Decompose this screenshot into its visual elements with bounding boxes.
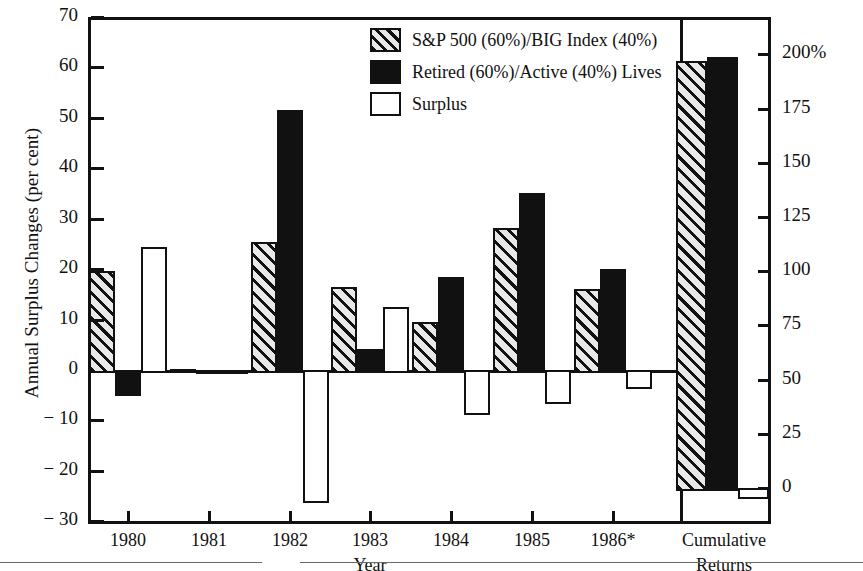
x-tick <box>289 511 292 524</box>
black-swatch-icon <box>370 60 401 84</box>
bar-sp500-big-index <box>574 289 600 373</box>
bar-retired-active-lives <box>438 277 464 373</box>
y-tick-label-right: 175 <box>782 96 863 118</box>
footer-rule-mid <box>300 562 730 563</box>
y-tick-left <box>91 117 104 120</box>
bar-surplus <box>464 370 490 415</box>
y-tick-label-right: 100 <box>782 258 863 280</box>
y-tick-left <box>91 16 104 19</box>
y-tick-label-right: 50 <box>782 367 863 389</box>
y-tick-label-left: 40 <box>8 155 78 177</box>
y-tick-right <box>758 53 771 56</box>
bar-sp500-big-index <box>412 322 438 373</box>
y-tick-label-left: 70 <box>8 4 78 26</box>
x-tick <box>531 511 534 524</box>
y-tick-left <box>91 66 104 69</box>
y-tick-label-right: 75 <box>782 312 863 334</box>
y-tick-label-right: 0 <box>782 475 863 497</box>
y-tick-label-left: 60 <box>8 54 78 76</box>
x-axis-title: Year <box>290 555 450 571</box>
y-tick-left <box>91 520 104 523</box>
y-tick-left <box>91 218 104 221</box>
x-group-label-cumulative-line2: Returns <box>644 555 804 571</box>
footer-rule-right <box>745 562 863 563</box>
bar-surplus <box>626 370 652 389</box>
y-tick-right <box>758 324 771 327</box>
bar-surplus <box>222 370 248 374</box>
axis-frame-bottom <box>88 521 768 524</box>
y-tick-label-right: 125 <box>782 204 863 226</box>
x-tick <box>612 511 615 524</box>
y-tick-label-right: 200% <box>782 41 863 63</box>
x-tick <box>450 511 453 524</box>
y-tick-left <box>91 470 104 473</box>
legend-label: S&P 500 (60%)/BIG Index (40%) <box>412 31 657 49</box>
y-tick-left <box>91 167 104 170</box>
axis-frame-top <box>88 17 768 20</box>
bar-surplus <box>545 370 571 404</box>
legend-item: S&P 500 (60%)/BIG Index (40%) <box>370 28 661 52</box>
bar-sp500-big-index <box>170 369 196 373</box>
legend-item: Surplus <box>370 92 661 116</box>
bar-sp500-big-index <box>331 287 357 373</box>
y-tick-label-left: − 10 <box>8 407 78 429</box>
y-tick-right <box>758 162 771 165</box>
bar-retired-active-lives <box>600 269 626 373</box>
y-tick-left <box>91 319 104 322</box>
bar-sp500-big-index-cumulative <box>676 61 707 491</box>
y-tick-right <box>758 379 771 382</box>
y-tick-label-right: 150 <box>782 150 863 172</box>
y-tick-label-left: − 30 <box>8 508 78 530</box>
x-group-label-cumulative-line1: Cumulative <box>644 530 804 551</box>
x-tick <box>208 511 211 524</box>
y-tick-label-left: 10 <box>8 307 78 329</box>
bar-retired-active-lives <box>115 370 141 396</box>
y-tick-label-left: 30 <box>8 206 78 228</box>
legend-label: Retired (60%)/Active (40%) Lives <box>412 63 661 81</box>
y-tick-label-left: 20 <box>8 256 78 278</box>
bar-retired-active-lives <box>277 110 303 373</box>
y-tick-label-left: − 20 <box>8 458 78 480</box>
y-tick-left <box>91 419 104 422</box>
x-tick <box>127 511 130 524</box>
bar-surplus <box>383 307 409 373</box>
bar-sp500-big-index <box>493 228 519 373</box>
chart-legend: S&P 500 (60%)/BIG Index (40%)Retired (60… <box>370 28 661 124</box>
x-tick <box>369 511 372 524</box>
y-tick-right <box>758 108 771 111</box>
bar-retired-active-lives-cumulative <box>707 57 738 491</box>
y-tick-right <box>758 216 771 219</box>
bar-surplus <box>303 370 329 503</box>
bar-retired-active-lives <box>357 349 383 373</box>
hatched-swatch-icon <box>370 28 401 52</box>
bar-sp500-big-index <box>89 271 115 373</box>
chart-figure: Annual Surplus Changes (per cent) 706050… <box>0 0 863 571</box>
bar-retired-active-lives <box>196 370 222 374</box>
bar-sp500-big-index <box>251 242 277 373</box>
y-tick-label-left: 0 <box>8 357 78 379</box>
y-tick-left <box>91 268 104 271</box>
white-swatch-icon <box>370 92 401 116</box>
y-tick-right <box>758 433 771 436</box>
legend-label: Surplus <box>412 95 467 113</box>
y-tick-right <box>758 487 771 490</box>
y-tick-label-left: 50 <box>8 105 78 127</box>
footer-rule-left <box>0 562 262 563</box>
y-tick-right <box>758 270 771 273</box>
y-tick-label-right: 25 <box>782 421 863 443</box>
bar-surplus <box>141 247 167 373</box>
legend-item: Retired (60%)/Active (40%) Lives <box>370 60 661 84</box>
bar-retired-active-lives <box>519 193 545 373</box>
